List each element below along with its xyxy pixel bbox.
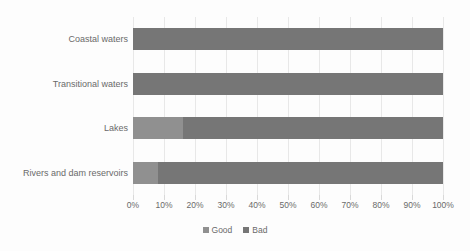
chart-legend: GoodBad [0,226,470,235]
category-label: Lakes [0,117,128,139]
category-axis-labels: Coastal watersTransitional watersLakesRi… [0,17,470,195]
x-tick-label: 80% [372,200,389,210]
value-axis-labels: 0%10%20%30%40%50%60%70%80%90%100% [133,200,443,214]
x-tick-label: 90% [403,200,420,210]
x-tick-label: 70% [341,200,358,210]
axis-tick-mark [133,195,134,200]
axis-tick-mark [381,195,382,200]
x-tick-label: 30% [217,200,234,210]
legend-label: Bad [252,226,267,235]
x-tick-label: 100% [432,200,454,210]
legend-item-good[interactable]: Good [203,226,233,235]
axis-tick-mark [412,195,413,200]
axis-tick-mark [257,195,258,200]
x-tick-label: 10% [155,200,172,210]
x-tick-label: 40% [248,200,265,210]
axis-tick-mark [350,195,351,200]
x-tick-label: 0% [127,200,139,210]
stacked-bar-chart: Coastal watersTransitional watersLakesRi… [0,0,470,251]
category-label: Rivers and dam reservoirs [0,162,128,184]
axis-tick-mark [443,195,444,200]
legend-item-bad[interactable]: Bad [243,226,267,235]
x-tick-label: 20% [186,200,203,210]
square-marker-icon [243,227,249,233]
axis-tick-mark [319,195,320,200]
square-marker-icon [203,227,209,233]
axis-tick-mark [288,195,289,200]
x-tick-label: 60% [310,200,327,210]
legend-label: Good [212,226,233,235]
x-tick-label: 50% [279,200,296,210]
category-label: Transitional waters [0,73,128,95]
axis-tick-mark [195,195,196,200]
axis-tick-mark [164,195,165,200]
category-label: Coastal waters [0,28,128,50]
axis-tick-mark [226,195,227,200]
